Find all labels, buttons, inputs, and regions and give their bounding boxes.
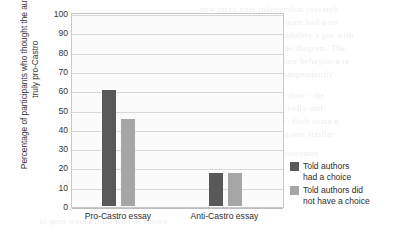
bar xyxy=(102,90,116,206)
legend-label: Told authors did not have a choice xyxy=(303,185,370,206)
legend-label: Told authors had a choice xyxy=(303,161,351,182)
y-tick-label: 80 xyxy=(58,48,68,57)
legend-item[interactable]: Told authors did not have a choice xyxy=(290,185,402,206)
y-tick-label: 40 xyxy=(58,125,68,134)
bar-series-group xyxy=(72,14,283,207)
y-tick-label: 50 xyxy=(58,106,68,115)
legend-swatch-icon xyxy=(290,186,299,195)
y-axis-tick-labels: 0102030405060708090100 xyxy=(44,12,68,208)
bar xyxy=(228,173,242,206)
x-axis-category-labels: Pro-Castro essayAnti-Castro essay xyxy=(71,211,284,225)
legend-swatch-icon xyxy=(290,162,299,171)
bar-chart-figure: Percentage of participants who thought t… xyxy=(0,0,405,244)
y-tick-label: 100 xyxy=(54,10,68,19)
y-tick-label: 70 xyxy=(58,67,68,76)
y-tick-label: 10 xyxy=(58,183,68,192)
plot-area xyxy=(71,13,284,208)
y-tick-label: 20 xyxy=(58,164,68,173)
x-category-label: Pro-Castro essay xyxy=(85,211,151,222)
y-tick-label: 30 xyxy=(58,145,68,154)
gridline xyxy=(72,208,283,209)
legend-item[interactable]: Told authors had a choice xyxy=(290,161,402,182)
y-tick-label: 60 xyxy=(58,87,68,96)
y-axis-title: Percentage of participants who thought t… xyxy=(19,0,41,169)
x-category-label: Anti-Castro essay xyxy=(190,211,258,222)
bar xyxy=(209,173,223,206)
bar xyxy=(121,119,135,206)
y-tick-label: 90 xyxy=(58,29,68,38)
y-tick-label: 0 xyxy=(63,203,68,212)
chart-legend: Told authors had a choiceTold authors di… xyxy=(290,161,402,209)
